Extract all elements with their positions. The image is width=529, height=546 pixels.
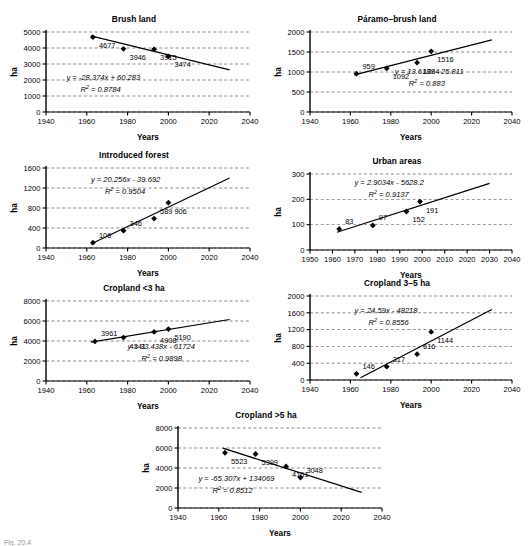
y-tick-label: 1000 (288, 68, 305, 77)
x-tick-label: 2020 (201, 253, 218, 262)
chart-panel-cropland-lt-3-ha: Cropland <3 ha02000400060008000194019601… (8, 283, 260, 413)
data-point-marker (253, 451, 259, 457)
chart-panel-paramo-brush-land: Páramo–brush land05001000150020001940196… (272, 14, 522, 144)
y-tick-label: 3000 (24, 60, 41, 69)
chart-introduced-forest: 040080012001600194019601980200020202040h… (8, 150, 260, 280)
y-tick-label: 2000 (288, 292, 305, 301)
data-point-label: 3474 (174, 60, 190, 69)
y-tick-label: 0 (168, 504, 172, 513)
data-point-label: 959 (362, 62, 374, 71)
regression-equation: y = 2.9034x - 5628.2 (353, 178, 424, 187)
x-tick-label: 1960 (78, 253, 95, 262)
chart-cropland-gt-5-ha: 0200040006000800019401960198020002020204… (140, 410, 392, 540)
x-tick-label: 2020 (463, 117, 480, 126)
x-tick-label: 1980 (251, 513, 268, 522)
chart-paramo-brush-land: 0500100015002000194019601980200020202040… (272, 14, 522, 144)
r-squared-label: R2 = 0.9137 (368, 189, 409, 199)
data-point-label: 906 (174, 207, 186, 216)
data-point-marker (166, 326, 172, 332)
data-point-marker (121, 228, 127, 234)
chart-urban-areas: 0100200300195019601970198019902000201020… (272, 156, 522, 282)
y-tick-label: 1200 (24, 184, 41, 193)
data-point-marker (417, 199, 423, 205)
x-axis-title: Years (137, 133, 159, 142)
y-tick-label: 1500 (288, 48, 305, 57)
x-tick-label: 1980 (119, 117, 136, 126)
y-axis-title: ha (274, 67, 283, 77)
x-axis-title: Years (269, 529, 291, 538)
y-tick-label: 200 (292, 195, 305, 204)
y-tick-label: 0 (36, 244, 40, 253)
data-point-label: 1516 (437, 55, 453, 64)
x-tick-label: 2000 (292, 513, 309, 522)
x-tick-label: 2000 (160, 253, 177, 262)
y-tick-label: 1600 (24, 164, 41, 173)
data-point-marker (414, 351, 420, 357)
chart-panel-cropland-gt-5-ha: Cropland >5 ha02000400060008000194019601… (140, 410, 392, 540)
x-tick-label: 2040 (374, 513, 391, 522)
x-tick-label: 2000 (423, 117, 440, 126)
y-tick-label: 500 (292, 88, 305, 97)
x-tick-label: 2020 (333, 513, 350, 522)
x-tick-label: 1980 (382, 385, 399, 394)
y-tick-label: 0 (300, 246, 304, 255)
data-point-label: 5190 (174, 333, 190, 342)
x-tick-label: 2000 (414, 255, 431, 264)
r-squared-label: R2 = 0.9898 (142, 353, 183, 363)
x-tick-label: 2040 (504, 117, 521, 126)
x-tick-label: 1960 (342, 385, 359, 394)
y-tick-label: 0 (36, 377, 40, 386)
x-tick-label: 2010 (436, 255, 453, 264)
x-tick-label: 2020 (201, 117, 218, 126)
data-point-label: 3048 (306, 466, 322, 475)
x-tick-label: 1970 (346, 255, 363, 264)
axes (175, 426, 383, 512)
data-point-marker (354, 71, 360, 77)
data-point-label: 1144 (437, 336, 453, 345)
y-axis-title: ha (142, 463, 151, 473)
y-tick-label: 300 (292, 170, 305, 179)
y-axis-title: ha (10, 67, 19, 77)
data-point-marker (151, 216, 157, 222)
x-tick-label: 1940 (302, 117, 319, 126)
x-tick-label: 2030 (481, 255, 498, 264)
x-tick-label: 1950 (302, 255, 319, 264)
y-tick-label: 400 (292, 359, 305, 368)
data-point-label: 3946 (130, 53, 146, 62)
data-point-marker (370, 223, 376, 229)
data-point-label: 83 (345, 217, 353, 226)
y-tick-label: 400 (28, 224, 41, 233)
x-tick-label: 2040 (504, 385, 521, 394)
y-axis-title: ha (10, 336, 19, 346)
r-squared-label: R2 = 0.8512 (212, 485, 253, 495)
r-squared-label: R2 = 0.8784 (80, 84, 120, 94)
y-tick-label: 2000 (288, 28, 305, 37)
data-point-label: 616 (423, 342, 435, 351)
chart-panel-brush-land: Brush land010002000300040005000194019601… (8, 14, 260, 144)
regression-equation: y = -28.374x + 60.283 (65, 73, 141, 82)
y-tick-label: 800 (292, 342, 305, 351)
figure-page: Brush land010002000300040005000194019601… (0, 0, 529, 546)
y-tick-label: 5000 (24, 28, 41, 37)
data-point-label: 3961 (101, 329, 117, 338)
y-axis-title: ha (10, 203, 19, 213)
x-tick-label: 2000 (160, 386, 177, 395)
regression-equation: y = 24.59x - 48218 (353, 306, 418, 315)
data-point-marker (92, 338, 98, 344)
data-point-label: 97 (379, 213, 387, 222)
y-tick-label: 2000 (24, 76, 41, 85)
y-tick-label: 0 (300, 108, 304, 117)
data-point-label: 346 (130, 219, 142, 228)
chart-panel-urban-areas: Urban areas01002003001950196019701980199… (272, 156, 522, 282)
chart-panel-cropland-3-5-ha: Cropland 3–5 ha0400800120016002000194019… (272, 278, 522, 412)
x-tick-label: 1990 (391, 255, 408, 264)
chart-cropland-lt-3-ha: 0200040006000800019401960198020002020204… (8, 283, 260, 413)
x-tick-label: 2000 (160, 117, 177, 126)
regression-equation: y = -65.307x + 134069 (197, 474, 275, 483)
x-tick-label: 2040 (242, 253, 259, 262)
data-point-label: 146 (362, 362, 374, 371)
x-tick-label: 2020 (459, 255, 476, 264)
x-tick-label: 2040 (504, 255, 521, 264)
regression-equation: y = 13.618x - 25.811 (394, 67, 464, 76)
data-point-label: 191 (426, 206, 438, 215)
